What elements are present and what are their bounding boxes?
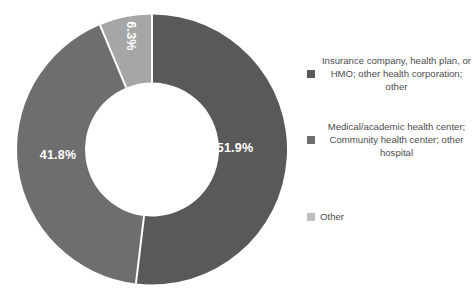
legend-item-label: Medical/academic health center; Communit… (320, 120, 473, 160)
slice-data-label-0: 51.9% (204, 141, 266, 155)
legend-swatch-icon-1 (307, 136, 315, 144)
legend-item-label: Insurance company, health plan, or HMO; … (320, 54, 473, 94)
legend-item-label: Other (320, 210, 473, 223)
legend-swatch-icon-0 (307, 70, 315, 78)
donut-chart-figure: 51.9% 41.8% 6.3% Insurance company, heal… (0, 0, 473, 294)
slice-data-label-2: 6.3% (124, 5, 138, 67)
legend-item-medical-academic-health-center[interactable]: Medical/academic health center; Communit… (307, 120, 473, 160)
chart-plot-area: 51.9% 41.8% 6.3% (0, 0, 305, 294)
slice-data-label-1: 41.8% (27, 148, 89, 162)
chart-legend: Insurance company, health plan, or HMO; … (307, 0, 473, 294)
legend-item-insurance-company[interactable]: Insurance company, health plan, or HMO; … (307, 54, 473, 94)
legend-item-other[interactable]: Other (307, 210, 473, 223)
legend-swatch-icon-2 (307, 213, 315, 221)
